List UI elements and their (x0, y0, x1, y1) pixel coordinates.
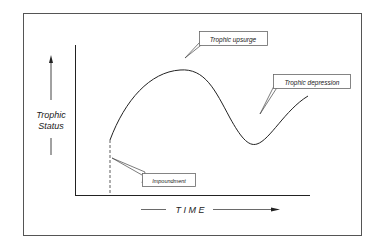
callout-impoundment: Impoundment (112, 158, 196, 187)
trophic-status-diagram: Trophic Status Trophic upsurge Trophic d… (0, 0, 377, 250)
callout-upsurge-text: Trophic upsurge (210, 36, 257, 44)
callout-upsurge: Trophic upsurge (185, 32, 268, 59)
y-arrow-icon (49, 55, 53, 155)
y-axis-label-line1: Trophic (36, 110, 66, 120)
x-axis-label: T I M E (176, 205, 206, 215)
callout-depression: Trophic depression (260, 75, 351, 115)
callout-depression-text: Trophic depression (285, 79, 340, 87)
y-axis-label-line2: Status (38, 121, 64, 131)
outer-frame (24, 14, 362, 236)
time-arrow-icon (141, 208, 280, 212)
callout-impoundment-text: Impoundment (152, 178, 186, 184)
